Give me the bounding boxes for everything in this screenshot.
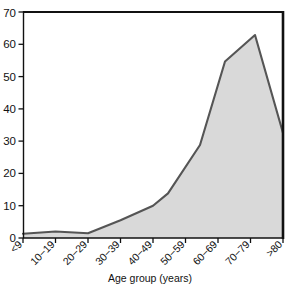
y-axis-ticks xyxy=(19,12,24,238)
x-tick-label-20-29: 20−29 xyxy=(60,238,89,267)
x-axis-tick-labels: <9 10−19 20−29 30−39 40−49 50−59 60−69 7… xyxy=(7,238,284,267)
x-tick-label-70-79: 70−79 xyxy=(223,238,252,267)
x-tick-label-10-19: 10−19 xyxy=(28,238,57,267)
y-tick-label-40: 40 xyxy=(3,103,16,115)
x-tick-label-gt80: >80 xyxy=(263,238,284,259)
y-tick-label-10: 10 xyxy=(3,200,16,212)
x-tick-label-60-69: 60−69 xyxy=(190,238,219,267)
y-tick-label-30: 30 xyxy=(3,135,16,147)
y-tick-label-50: 50 xyxy=(3,71,16,83)
x-tick-label-50-59: 50−59 xyxy=(158,238,187,267)
y-axis-tick-labels: 0 10 20 30 40 50 60 70 xyxy=(3,7,16,245)
y-tick-label-60: 60 xyxy=(3,38,16,50)
x-tick-label-30-39: 30−39 xyxy=(93,238,122,267)
y-tick-label-20: 20 xyxy=(3,167,16,179)
x-axis-title: Age group (years) xyxy=(108,272,192,284)
x-tick-label-40-49: 40−49 xyxy=(125,238,154,267)
y-tick-label-70: 70 xyxy=(3,7,16,19)
area-chart: 0 10 20 30 40 50 60 70 <9 10−19 20−29 30… xyxy=(0,0,290,290)
chart-figure: 0 10 20 30 40 50 60 70 <9 10−19 20−29 30… xyxy=(0,0,290,290)
